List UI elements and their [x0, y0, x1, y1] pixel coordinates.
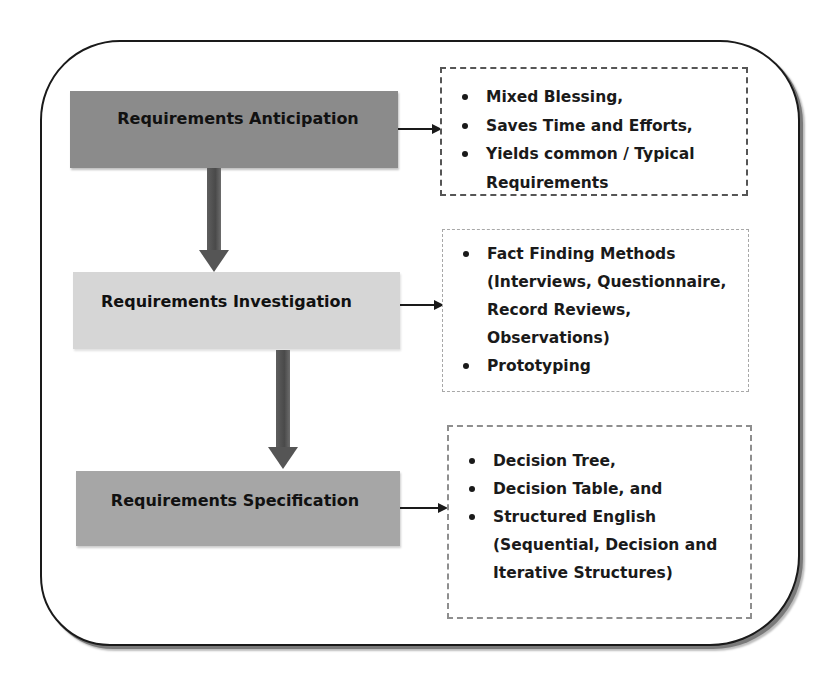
note-item: Yields common / Typical Requirements [442, 140, 746, 197]
note-item: Decision Table, and [449, 475, 750, 503]
note-item: Fact Finding Methods (Interviews, Questi… [443, 240, 748, 352]
note-item: Prototyping [443, 352, 748, 380]
stage-label: Requirements Investigation [101, 292, 352, 311]
note-item: Decision Tree, [449, 447, 750, 475]
notes-investigation: Fact Finding Methods (Interviews, Questi… [442, 229, 749, 392]
right-arrow-icon [398, 124, 442, 134]
note-item: Structured English (Sequential, Decision… [449, 503, 750, 587]
stage-requirements-specification: Requirements Specification [76, 471, 400, 546]
right-arrow-icon [400, 503, 448, 513]
down-arrow-icon [199, 168, 229, 272]
stage-requirements-investigation: Requirements Investigation [73, 272, 400, 349]
notes-specification: Decision Tree, Decision Table, and Struc… [447, 425, 752, 619]
stage-requirements-anticipation: Requirements Anticipation [70, 91, 398, 168]
note-item: Mixed Blessing, [442, 83, 746, 112]
stage-label: Requirements Specification [111, 491, 359, 510]
note-item: Saves Time and Efforts, [442, 112, 746, 141]
down-arrow-icon [268, 350, 298, 471]
stage-label: Requirements Anticipation [117, 109, 359, 128]
notes-anticipation: Mixed Blessing, Saves Time and Efforts, … [440, 67, 748, 196]
right-arrow-icon [400, 300, 444, 310]
